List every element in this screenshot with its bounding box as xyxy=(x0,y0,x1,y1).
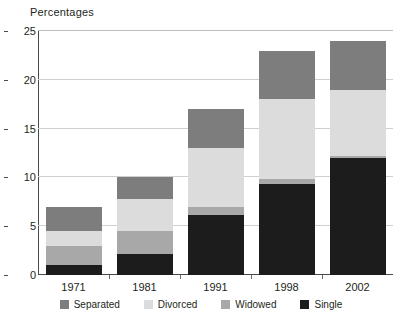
legend-label-divorced: Divorced xyxy=(158,299,197,310)
bar-segment-1998-divorced xyxy=(259,99,315,179)
legend-label-widowed: Widowed xyxy=(235,299,276,310)
bar-segment-1971-divorced xyxy=(46,231,102,246)
bar-segment-1991-single xyxy=(188,215,244,276)
bars-layer xyxy=(38,31,393,275)
y-tick-mark-5 xyxy=(4,226,8,227)
x-tick-label-1981: 1981 xyxy=(132,281,156,293)
y-tick-label-0: 0 xyxy=(8,269,36,281)
y-tick-mark-25 xyxy=(4,31,8,32)
bar-1998 xyxy=(259,51,315,275)
bar-segment-1971-widowed xyxy=(46,246,102,266)
bar-segment-1981-separated xyxy=(117,177,173,198)
x-tick-label-1998: 1998 xyxy=(274,281,298,293)
bar-segment-1991-divorced xyxy=(188,148,244,207)
y-tick-label-15: 15 xyxy=(8,123,36,135)
legend-swatch-separated xyxy=(60,300,69,309)
legend-item-widowed[interactable]: Widowed xyxy=(221,299,276,310)
bar-segment-1981-divorced xyxy=(117,199,173,231)
bar-1981 xyxy=(117,177,173,275)
bar-segment-1991-separated xyxy=(188,109,244,148)
stacked-bar-chart: Percentages 0510152025 19711981199119982… xyxy=(0,0,402,323)
y-tick-label-10: 10 xyxy=(8,171,36,183)
legend-item-divorced[interactable]: Divorced xyxy=(144,299,197,310)
y-tick-mark-15 xyxy=(4,129,8,130)
bar-segment-1998-separated xyxy=(259,51,315,100)
y-tick-mark-0 xyxy=(4,275,8,276)
legend-label-separated: Separated xyxy=(74,299,120,310)
x-tick-mark-1 xyxy=(109,275,110,279)
legend-swatch-widowed xyxy=(221,300,230,309)
y-tick-label-25: 25 xyxy=(8,25,36,37)
bar-segment-2002-divorced xyxy=(330,90,386,156)
x-tick-label-1971: 1971 xyxy=(61,281,85,293)
y-axis-title: Percentages xyxy=(30,6,94,18)
x-tick-mark-3 xyxy=(251,275,252,279)
x-tick-label-2002: 2002 xyxy=(345,281,369,293)
x-tick-label-1991: 1991 xyxy=(203,281,227,293)
legend-swatch-divorced xyxy=(144,300,153,309)
x-tick-mark-2 xyxy=(180,275,181,279)
bar-segment-1981-single xyxy=(117,254,173,275)
bar-segment-1998-single xyxy=(259,184,315,275)
bar-segment-1991-widowed xyxy=(188,207,244,215)
legend-swatch-single xyxy=(300,300,309,309)
bar-segment-2002-single xyxy=(330,158,386,275)
x-tick-mark-4 xyxy=(322,275,323,279)
legend-item-single[interactable]: Single xyxy=(300,299,342,310)
bar-segment-1971-single xyxy=(46,265,102,275)
y-tick-label-20: 20 xyxy=(8,74,36,86)
legend-item-separated[interactable]: Separated xyxy=(60,299,120,310)
bar-segment-2002-separated xyxy=(330,41,386,90)
bar-2002 xyxy=(330,41,386,275)
bar-1971 xyxy=(46,207,102,275)
y-tick-label-5: 5 xyxy=(8,220,36,232)
bar-segment-1971-separated xyxy=(46,207,102,231)
bar-segment-1981-widowed xyxy=(117,231,173,253)
legend-label-single: Single xyxy=(314,299,342,310)
plot-area xyxy=(38,31,393,275)
y-tick-mark-20 xyxy=(4,80,8,81)
y-tick-mark-10 xyxy=(4,177,8,178)
chart-legend: SeparatedDivorcedWidowedSingle xyxy=(0,299,402,310)
bar-1991 xyxy=(188,109,244,275)
